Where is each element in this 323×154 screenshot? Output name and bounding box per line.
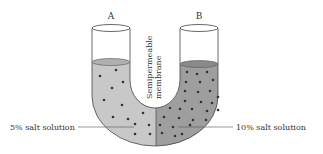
salt-particle bbox=[159, 124, 162, 127]
salt-particle bbox=[169, 107, 172, 110]
salt-particle bbox=[161, 132, 164, 135]
salt-particle bbox=[99, 75, 102, 78]
salt-particle bbox=[211, 102, 214, 105]
salt-particle bbox=[115, 69, 118, 72]
arm-b-label: B bbox=[196, 11, 203, 21]
arm-a-label: A bbox=[107, 11, 115, 21]
salt-particle bbox=[112, 116, 115, 119]
salt-particle bbox=[134, 133, 137, 136]
salt-particle bbox=[142, 112, 145, 115]
salt-particle bbox=[174, 135, 177, 138]
left-solution-label: 5% salt solution bbox=[10, 123, 75, 132]
salt-particle bbox=[127, 118, 130, 121]
salt-particle bbox=[205, 119, 208, 122]
salt-particle bbox=[184, 100, 187, 103]
salt-particle bbox=[200, 101, 203, 104]
salt-particle bbox=[148, 124, 151, 127]
salt-particle bbox=[134, 123, 137, 126]
salt-particle bbox=[212, 79, 215, 82]
salt-particle bbox=[206, 71, 209, 74]
salt-particle bbox=[217, 96, 220, 99]
salt-particle bbox=[192, 119, 195, 122]
salt-particle bbox=[172, 126, 175, 129]
salt-particle bbox=[199, 81, 202, 84]
arm-b-rim bbox=[180, 25, 218, 32]
salt-particle bbox=[111, 87, 114, 90]
salt-particle bbox=[196, 73, 199, 76]
right-solution-label: 10% salt solution bbox=[236, 123, 306, 132]
salt-particle bbox=[191, 108, 194, 111]
salt-particle bbox=[163, 116, 166, 119]
salt-particle bbox=[186, 71, 189, 74]
salt-particle bbox=[179, 108, 182, 111]
salt-particle bbox=[181, 133, 184, 136]
arm-a-surface bbox=[92, 59, 130, 66]
membrane-label-line2: membrane bbox=[154, 55, 163, 99]
right-solution-fill bbox=[156, 64, 218, 146]
salt-particle bbox=[197, 91, 200, 94]
arm-a-rim bbox=[92, 25, 130, 32]
membrane-label-line1: Semipermeable bbox=[145, 35, 154, 99]
salt-particle bbox=[217, 109, 220, 112]
u-tube-diagram: A B Semipermeable membrane 5% salt solut… bbox=[0, 0, 323, 154]
salt-particle bbox=[149, 133, 152, 136]
salt-particle bbox=[189, 124, 192, 127]
arm-b-surface bbox=[180, 61, 218, 68]
salt-particle bbox=[121, 104, 124, 107]
salt-particle bbox=[184, 90, 187, 93]
salt-particle bbox=[209, 90, 212, 93]
salt-particle bbox=[122, 81, 125, 84]
salt-particle bbox=[206, 110, 209, 113]
salt-particle bbox=[185, 81, 188, 84]
salt-particle bbox=[178, 117, 181, 120]
salt-particle bbox=[103, 99, 106, 102]
